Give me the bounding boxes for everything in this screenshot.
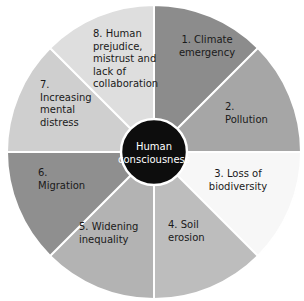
- segment-8-label-line: 8. Human: [93, 28, 142, 39]
- segment-1-label-line: emergency: [179, 47, 235, 58]
- segment-7-label-line: Increasing: [40, 92, 92, 103]
- segment-1-label: 1. Climateemergency: [179, 34, 235, 58]
- center-label-line-1: Human: [136, 141, 172, 152]
- segment-3-label: 3. Loss ofbiodiversity: [209, 168, 267, 192]
- segment-5-label-line: inequality: [79, 234, 129, 245]
- center-circle: [121, 119, 187, 185]
- segment-4-label-line: erosion: [168, 232, 205, 243]
- segment-8-label-line: mistrust and: [93, 53, 156, 64]
- segment-2-label-line: 2.: [225, 101, 235, 112]
- segment-1-label-line: 1. Climate: [181, 34, 232, 45]
- segment-7-label-line: distress: [40, 117, 79, 128]
- segment-6-label-line: 6.: [38, 167, 48, 178]
- segment-6-label-line: Migration: [38, 180, 85, 191]
- segment-8-label-line: prejudice,: [93, 41, 142, 52]
- segment-2-label-line: Pollution: [225, 114, 268, 125]
- issues-wheel-diagram: 1. Climateemergency2.Pollution3. Loss of…: [0, 0, 304, 301]
- segment-8-label-line: collaboration: [93, 78, 158, 89]
- center-label-line-2: consciousness: [118, 154, 190, 165]
- segment-5-label-line: 5. Widening: [79, 221, 138, 232]
- segment-4-label-line: 4. Soil: [168, 219, 199, 230]
- segment-7-label-line: 7.: [40, 79, 50, 90]
- segment-3-label-line: 3. Loss of: [214, 168, 262, 179]
- segment-3-label-line: biodiversity: [209, 181, 267, 192]
- segment-8-label-line: lack of: [93, 66, 126, 77]
- segment-7-label-line: mental: [40, 104, 75, 115]
